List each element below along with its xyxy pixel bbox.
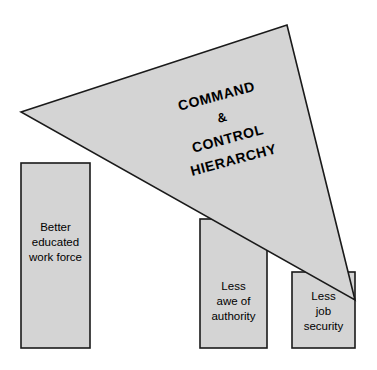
pillar-label-middle-line-2: awe of [217, 295, 252, 307]
pillar-better-educated-work-force: Better educated work force [21, 163, 90, 348]
pillar-label-middle-line-3: authority [211, 310, 255, 322]
pillar-label-middle-line-1: Less [221, 280, 246, 292]
concept-diagram: Better educated work force Less awe of a… [0, 0, 377, 370]
diagram-canvas: Better educated work force Less awe of a… [0, 0, 377, 370]
pillar-label-left-line-3: work force [28, 251, 82, 263]
pillar-label-left-line-1: Better [40, 221, 71, 233]
pillar-label-left-line-2: educated [32, 236, 79, 248]
pillar-label-right-line-2: job [315, 305, 331, 317]
pillar-label-right-line-1: Less [311, 290, 336, 302]
pillar-label-right-line-3: security [304, 320, 344, 332]
